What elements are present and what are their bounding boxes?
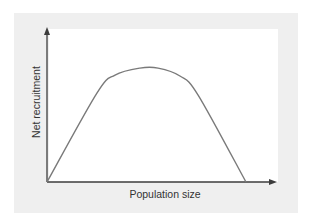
series-line-0 <box>47 67 246 182</box>
chart: Population size Net recruitment <box>0 0 313 222</box>
y-axis-label: Net recruitment <box>30 66 42 138</box>
x-axis-arrow-icon <box>269 179 277 185</box>
y-axis-arrow-icon <box>44 27 50 35</box>
series-layer <box>47 67 246 182</box>
x-axis-label: Population size <box>129 188 200 200</box>
